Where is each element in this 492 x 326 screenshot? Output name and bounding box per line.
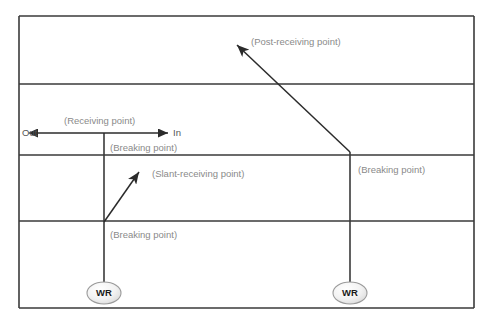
label-breaking-point-lower-left: (Breaking point) xyxy=(110,229,177,240)
diagram-svg: Out In (Receiving point) (Breaking point… xyxy=(0,0,492,326)
frame-side-edges xyxy=(19,16,474,308)
post-receiving-arrow-shaft xyxy=(237,45,350,152)
label-receiving-point: (Receiving point) xyxy=(64,115,135,126)
label-breaking-point-upper: (Breaking point) xyxy=(110,142,177,153)
node-wr-left-label: WR xyxy=(96,287,112,298)
node-wr-right[interactable]: WR xyxy=(333,282,367,304)
diagram-canvas: Out In (Receiving point) (Breaking point… xyxy=(0,0,492,326)
post-receiving-arrow xyxy=(237,45,350,152)
label-slant-receiving-point: (Slant-receiving point) xyxy=(152,168,244,179)
slant-receiving-arrow-shaft xyxy=(104,172,139,222)
label-out: Out xyxy=(22,127,38,138)
node-wr-left[interactable]: WR xyxy=(87,282,121,304)
label-in: In xyxy=(173,127,181,138)
horizontal-rules xyxy=(19,16,474,308)
node-wr-right-label: WR xyxy=(342,287,358,298)
label-breaking-point-right: (Breaking point) xyxy=(358,164,425,175)
slant-receiving-arrow xyxy=(104,172,139,222)
label-post-receiving-point: (Post-receiving point) xyxy=(251,36,341,47)
